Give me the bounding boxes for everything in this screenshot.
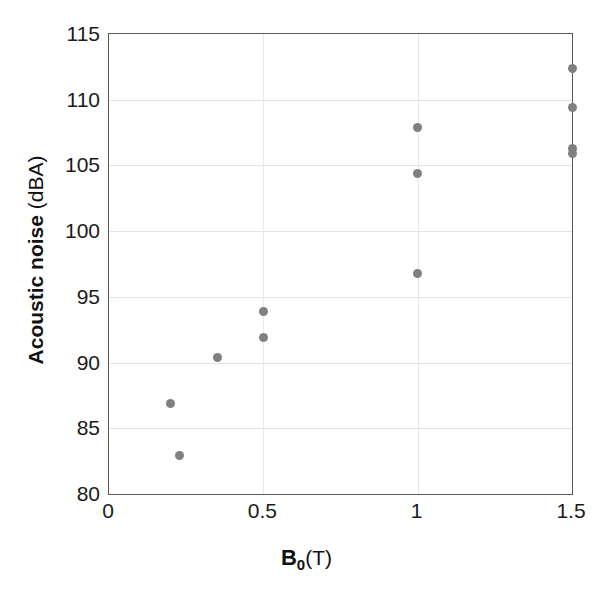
x-tick-label-0.5: 0.5 <box>248 500 277 521</box>
y-tick-label-90: 90 <box>77 351 100 372</box>
gridline-x-0.5 <box>263 34 264 494</box>
x-axis-subscript: 0 <box>297 556 305 573</box>
plot-area <box>108 33 573 495</box>
y-tick-label-95: 95 <box>77 285 100 306</box>
x-axis-title: B0(T) <box>0 545 613 573</box>
data-point <box>568 64 577 73</box>
gridline-y-85 <box>109 428 572 429</box>
data-point <box>568 103 577 112</box>
data-point <box>568 149 577 158</box>
data-point <box>175 451 184 460</box>
y-axis-title: Acoustic noise (dBA) <box>24 110 48 410</box>
gridline-y-105 <box>109 165 572 166</box>
gridline-y-100 <box>109 231 572 232</box>
x-tick-label-1.5: 1.5 <box>556 500 585 521</box>
x-axis-symbol: B <box>281 545 297 570</box>
y-tick-label-105: 105 <box>65 154 100 175</box>
data-point <box>413 269 422 278</box>
gridline-y-90 <box>109 363 572 364</box>
y-tick-label-115: 115 <box>67 23 100 44</box>
y-axis-main-label: Acoustic noise <box>24 215 47 364</box>
y-tick-label-110: 110 <box>67 88 100 109</box>
y-tick-label-85: 85 <box>77 417 100 438</box>
y-axis-tick-labels: 80859095100105110115 <box>0 33 100 493</box>
x-axis-unit: (T) <box>305 546 332 569</box>
data-point <box>259 333 268 342</box>
data-point <box>413 123 422 132</box>
x-axis-tick-labels: 00.511.5 <box>0 500 613 532</box>
data-point <box>213 353 222 362</box>
y-axis-unit: (dBA) <box>24 156 47 210</box>
gridline-x-1 <box>418 34 419 494</box>
gridline-y-95 <box>109 297 572 298</box>
scatter-plot-figure: 80859095100105110115 00.511.5 B0(T) Acou… <box>0 0 613 597</box>
y-tick-label-100: 100 <box>65 220 100 241</box>
data-point <box>413 169 422 178</box>
data-point <box>166 399 175 408</box>
gridline-y-110 <box>109 100 572 101</box>
x-tick-label-0: 0 <box>102 500 114 521</box>
data-point <box>259 307 268 316</box>
x-tick-label-1: 1 <box>411 500 423 521</box>
